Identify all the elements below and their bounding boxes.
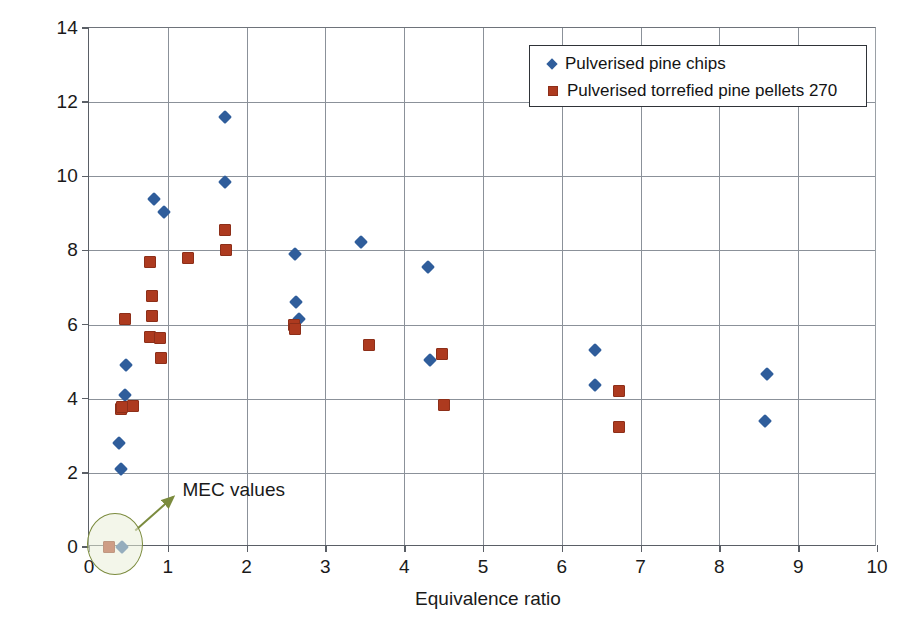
y-axis-tick-label: 2 — [67, 462, 78, 484]
data-point — [119, 313, 131, 325]
y-axis-tick — [82, 398, 89, 399]
data-point — [112, 436, 126, 450]
data-point — [217, 110, 231, 124]
x-axis-tick-label: 3 — [320, 556, 331, 578]
gridline-vertical — [247, 28, 248, 545]
x-axis-tick — [404, 545, 405, 552]
x-axis-tick — [877, 545, 878, 552]
square-marker-icon — [548, 86, 558, 96]
y-axis-tick-label: 12 — [56, 91, 78, 113]
mec-annotation-label: MEC values — [183, 479, 285, 501]
data-point — [758, 414, 772, 428]
x-axis-tick — [325, 545, 326, 552]
data-point — [220, 244, 232, 256]
x-axis-tick — [483, 545, 484, 552]
x-axis-tick-label: 10 — [866, 556, 887, 578]
x-axis-tick-label: 4 — [399, 556, 410, 578]
data-point — [146, 310, 158, 322]
scatter-chart: Average velocity (m/s) 01234567891002468… — [0, 0, 906, 630]
y-axis-tick-label: 4 — [67, 388, 78, 410]
x-axis-tick — [168, 545, 169, 552]
x-axis-tick — [562, 545, 563, 552]
x-axis-tick-label: 6 — [557, 556, 568, 578]
data-point — [154, 332, 166, 344]
gridline-vertical — [168, 28, 169, 545]
data-point — [363, 339, 375, 351]
y-axis-tick — [82, 27, 89, 28]
x-axis-tick-label: 8 — [714, 556, 725, 578]
data-point — [436, 348, 448, 360]
data-point — [289, 295, 303, 309]
gridline-horizontal — [89, 250, 875, 251]
data-point — [144, 256, 156, 268]
y-axis-tick — [82, 101, 89, 102]
y-axis-tick — [82, 472, 89, 473]
y-axis-tick-label: 14 — [56, 17, 78, 39]
x-axis-tick — [798, 545, 799, 552]
diamond-marker-icon — [546, 58, 557, 69]
gridline-horizontal — [89, 325, 875, 326]
data-point — [157, 204, 171, 218]
data-point — [588, 378, 602, 392]
legend-item-pulverised-pine-chips[interactable]: Pulverised pine chips — [548, 55, 726, 72]
x-axis-tick-label: 9 — [793, 556, 804, 578]
data-point — [155, 352, 167, 364]
data-point — [588, 343, 602, 357]
y-axis-tick-label: 8 — [67, 239, 78, 261]
data-point — [182, 252, 194, 264]
data-point — [421, 260, 435, 274]
legend-item-pulverised-torrefied-pine-pellets-270[interactable]: Pulverised torrefied pine pellets 270 — [548, 82, 837, 99]
x-axis-tick — [641, 545, 642, 552]
gridline-vertical — [325, 28, 326, 545]
chart-legend: Pulverised pine chips Pulverised torrefi… — [529, 45, 867, 107]
x-axis-tick — [719, 545, 720, 552]
y-axis-tick — [82, 250, 89, 251]
mec-highlight-ellipse — [87, 513, 143, 575]
x-axis-tick — [247, 545, 248, 552]
data-point — [288, 247, 302, 261]
data-point — [438, 399, 450, 411]
y-axis-tick — [82, 176, 89, 177]
x-axis-title-wrap: Equivalence ratio — [0, 588, 906, 610]
y-axis-tick-label: 0 — [67, 536, 78, 558]
data-point — [127, 400, 139, 412]
gridline-horizontal — [89, 176, 875, 177]
data-point — [119, 358, 133, 372]
legend-item-label: Pulverised torrefied pine pellets 270 — [567, 82, 837, 99]
x-axis-tick-label: 5 — [478, 556, 489, 578]
gridline-horizontal — [89, 399, 875, 400]
data-point — [147, 191, 161, 205]
gridline-vertical — [483, 28, 484, 545]
x-axis-tick-label: 1 — [163, 556, 174, 578]
data-point — [354, 235, 368, 249]
legend-item-label: Pulverised pine chips — [565, 55, 726, 72]
data-point — [760, 366, 774, 380]
data-point — [113, 462, 127, 476]
data-point — [219, 224, 231, 236]
data-point — [613, 385, 625, 397]
x-axis-tick-label: 7 — [635, 556, 646, 578]
x-axis-title: Equivalence ratio — [345, 588, 561, 610]
gridline-vertical — [404, 28, 405, 545]
y-axis-tick — [82, 324, 89, 325]
data-point — [613, 421, 625, 433]
gridline-horizontal — [89, 473, 875, 474]
y-axis-tick-label: 10 — [56, 165, 78, 187]
data-point — [289, 323, 301, 335]
y-axis-tick-label: 6 — [67, 314, 78, 336]
data-point — [146, 290, 158, 302]
x-axis-tick-label: 2 — [241, 556, 252, 578]
